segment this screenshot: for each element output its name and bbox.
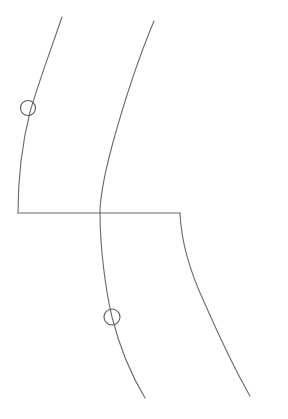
diagram-svg bbox=[0, 0, 288, 419]
background-rect bbox=[0, 0, 288, 419]
diagram-canvas bbox=[0, 0, 288, 419]
